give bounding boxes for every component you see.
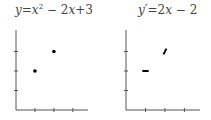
- data-point: [52, 50, 56, 54]
- data-point: [33, 69, 37, 73]
- slope-mark: [164, 49, 167, 55]
- plots-canvas: [0, 0, 211, 120]
